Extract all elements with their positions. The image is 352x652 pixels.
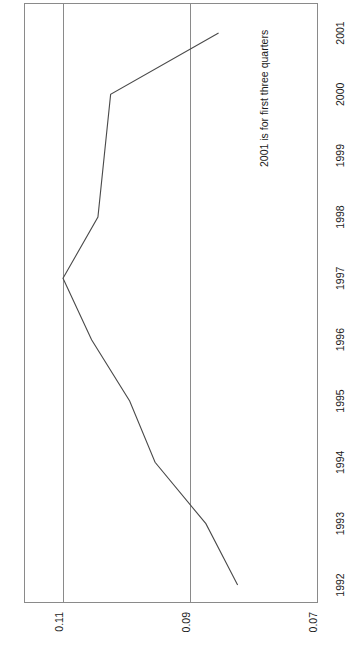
value-tick-0-09: 0.09 [180, 612, 192, 633]
category-tick-1994: 1994 [334, 450, 346, 474]
line-chart: 0.11 0.09 0.07 1992199319941995199619971… [0, 0, 352, 652]
category-tick-1998: 1998 [334, 205, 346, 229]
category-tick-1993: 1993 [334, 512, 346, 536]
category-tick-1992: 1992 [334, 573, 346, 597]
value-axis-tick-labels: 0.11 0.09 0.07 [53, 612, 319, 633]
category-tick-2000: 2000 [334, 82, 346, 106]
annotation-2001-note: 2001 is for first three quarters [258, 30, 270, 167]
data-series-line [63, 33, 238, 585]
value-tick-0-11: 0.11 [53, 612, 65, 632]
category-tick-1997: 1997 [334, 266, 346, 290]
value-tick-0-07: 0.07 [307, 612, 319, 633]
category-tick-1995: 1995 [334, 389, 346, 413]
category-tick-1996: 1996 [334, 328, 346, 352]
chart-container: 0.11 0.09 0.07 1992199319941995199619971… [0, 0, 352, 652]
category-tick-1999: 1999 [334, 144, 346, 168]
category-tick-2001: 2001 [334, 21, 346, 45]
category-axis-tick-labels: 1992199319941995199619971998199920002001 [334, 21, 346, 597]
gridlines [64, 4, 191, 603]
plot-border [25, 4, 318, 603]
